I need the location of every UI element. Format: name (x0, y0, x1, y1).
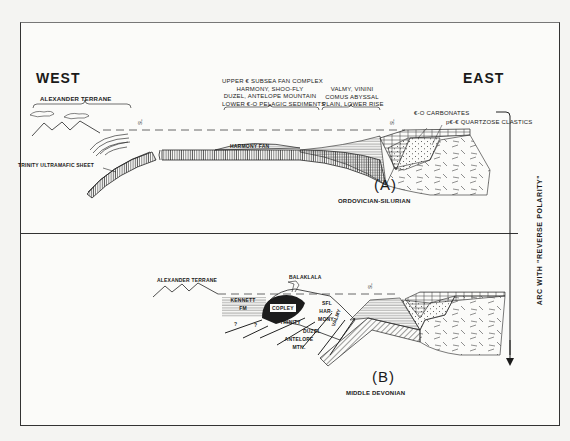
alexander-terrane-label-a: ALEXANDER TERRANE (40, 96, 111, 102)
svg-text:SL: SL (137, 119, 143, 125)
query-mark-2: ? (254, 322, 257, 328)
balaklala-label: BALAKLALA (289, 274, 322, 280)
copley-label: COPLEY (272, 305, 294, 311)
trinity-label: TRINITY (280, 319, 301, 325)
west-label: WEST (36, 70, 80, 86)
panel-a-label: (A) (374, 176, 397, 193)
reverse-polarity-arrow-label: ARC WITH "REVERSE POLARITY" (536, 175, 543, 306)
svg-text:SL: SL (389, 119, 395, 125)
east-label: EAST (463, 70, 504, 86)
harmony-fan-label: HARMONY FAN (230, 143, 269, 149)
kennett-fm-label: KENNETT FM (228, 297, 258, 312)
panel-b-age-label: MIDDLE DEVONIAN (346, 390, 405, 396)
cross-section-artwork: SL SL SL (0, 0, 570, 441)
subsea-fan-complex-label: UPPER € SUBSEA FAN COMPLEX HARMONY, SHOO… (222, 78, 318, 108)
carbonates-label: €-O CARBONATES (414, 110, 469, 116)
quartzose-clastics-label: p€-€ QUARTZOSE CLASTICS (446, 119, 533, 125)
svg-text:SL: SL (367, 283, 373, 289)
duzel-label: DUZEL (303, 328, 321, 334)
alexander-terrane-label-b: ALEXANDER TERRANE (157, 277, 217, 283)
abyssal-plain-label: VALMY, VININI COMUS ABYSSAL PLAIN, LOWER… (322, 86, 382, 109)
panel-b-label: (B) (372, 368, 395, 385)
panel-a-age-label: ORDOVICIAN-SILURIAN (338, 198, 410, 204)
shoo-fly-label-b: SFL (322, 300, 332, 306)
antelope-mtn-label: ANTELOPE MTN. (284, 336, 314, 351)
trinity-ultramafic-sheet-label: TRINITY ULTRAMAFIC SHEET (18, 162, 94, 168)
query-mark-1: ? (234, 321, 237, 327)
